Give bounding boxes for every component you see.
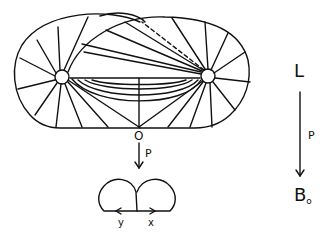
point-label-o: O [134, 130, 143, 142]
left-puncture [55, 70, 69, 84]
label-b-subscript: o [306, 196, 312, 206]
label-b: Bo [294, 186, 312, 206]
right-puncture [201, 69, 215, 83]
label-x: x [148, 218, 154, 228]
label-l: L [294, 62, 304, 80]
label-b-main: B [294, 184, 306, 205]
label-y: y [118, 218, 124, 228]
right-sheet-outline [68, 17, 249, 128]
lower-figure [99, 179, 176, 214]
diagram-canvas [0, 0, 328, 236]
left-sheet-outline [14, 14, 140, 128]
projection-label-p: P [145, 148, 152, 159]
right-arrow-label-p: P [308, 130, 315, 141]
